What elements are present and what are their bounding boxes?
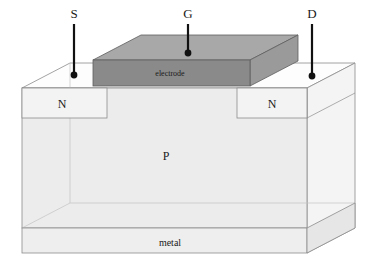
electrode-label: electrode (155, 69, 185, 78)
gate-terminal-label: G (183, 6, 192, 21)
source-n-label: N (58, 97, 67, 111)
metal-label: metal (159, 237, 181, 248)
gate-contact-dot (185, 50, 192, 57)
source-terminal-label: S (70, 6, 77, 21)
mosfet-svg: S G D electrode N N P metal (0, 0, 375, 274)
substrate-p-label: P (163, 149, 170, 163)
drain-contact-dot (309, 73, 316, 80)
drain-n-label: N (268, 97, 277, 111)
mosfet-diagram: S G D electrode N N P metal (0, 0, 375, 274)
source-contact-dot (71, 72, 78, 79)
drain-terminal-label: D (307, 6, 316, 21)
